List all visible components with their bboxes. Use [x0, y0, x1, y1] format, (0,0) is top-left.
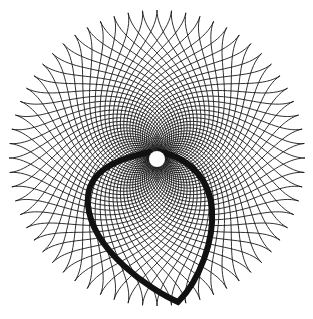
artwork-canvas — [0, 0, 313, 319]
spiral-mesh-artwork — [0, 0, 313, 319]
center-hole — [149, 151, 165, 167]
